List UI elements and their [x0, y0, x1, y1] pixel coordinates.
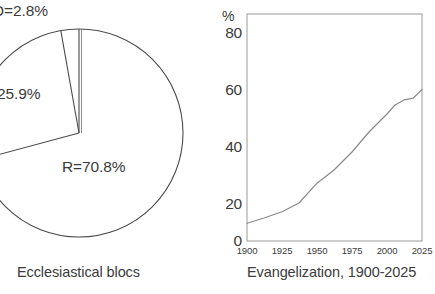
- y-tick-40: 40: [212, 138, 242, 156]
- x-tick-1975: 1975: [332, 245, 372, 256]
- line-chart-graphic: [210, 0, 435, 255]
- plot-frame: [247, 14, 422, 241]
- pie-slice-label-r: R=70.8%: [62, 158, 126, 176]
- x-tick-2000: 2000: [367, 245, 407, 256]
- y-tick-80: 80: [212, 24, 242, 42]
- y-tick-20: 20: [212, 195, 242, 213]
- pie-chart-graphic: [0, 0, 210, 250]
- x-tick-1925: 1925: [262, 245, 302, 256]
- line-chart-caption: Evangelization, 1900-2025: [247, 264, 416, 280]
- pie-slice-label-o: O=2.8%: [0, 2, 48, 20]
- x-tick-2025: 2025: [402, 245, 435, 256]
- pie-outline: [0, 29, 183, 237]
- x-tick-1900: 1900: [227, 245, 267, 256]
- y-tick-60: 60: [212, 81, 242, 99]
- pie-chart-panel: O=2.8% =25.9% R=70.8% Ecclesiastical blo…: [0, 0, 210, 294]
- figure-panel-pair: O=2.8% =25.9% R=70.8% Ecclesiastical blo…: [0, 0, 435, 294]
- line-chart-panel: % 80 60 40 20 0 1900 1925 1950 1975 2000…: [210, 0, 435, 294]
- y-axis-unit-label: %: [222, 8, 234, 24]
- pie-chart-caption: Ecclesiastical blocs: [17, 264, 140, 280]
- pie-slice-label-p: =25.9%: [0, 85, 40, 103]
- x-tick-1950: 1950: [297, 245, 337, 256]
